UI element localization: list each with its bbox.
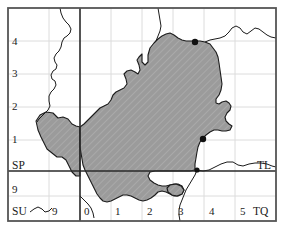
square-label-tq: TQ <box>253 206 268 218</box>
square-label-tl: TL <box>257 160 271 172</box>
distribution-map-figure: 4 3 2 1 SP TL SU TQ 9 9 0 1 2 3 4 5 <box>0 0 284 235</box>
site-marker-south <box>194 167 199 172</box>
square-label-su: SU <box>12 206 27 218</box>
site-marker-north <box>192 39 198 45</box>
x-axis-tick-2: 2 <box>147 206 153 217</box>
y-axis-tick-3: 3 <box>12 68 18 79</box>
x-axis-tick-1: 1 <box>115 206 121 217</box>
site-marker-east <box>200 136 206 142</box>
x-axis-tick-4: 4 <box>209 206 215 217</box>
x-axis-tick-3: 3 <box>178 206 184 217</box>
x-axis-tick-0: 0 <box>84 206 90 217</box>
left-row-label-9: 9 <box>12 184 18 195</box>
y-axis-tick-1: 1 <box>12 134 18 145</box>
x-axis-tick-9: 9 <box>52 206 58 217</box>
y-axis-tick-4: 4 <box>12 36 18 47</box>
y-axis-tick-2: 2 <box>12 101 18 112</box>
map-canvas <box>0 0 284 235</box>
square-label-sp: SP <box>12 160 25 172</box>
x-axis-tick-5: 5 <box>240 206 246 217</box>
